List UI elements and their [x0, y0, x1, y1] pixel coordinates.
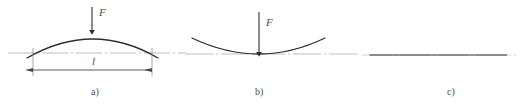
- force-label-a: F: [99, 7, 106, 18]
- span-label-a: l: [92, 56, 95, 67]
- force-label-b: F: [266, 17, 273, 28]
- caption-a: a): [91, 87, 99, 97]
- caption-b: b): [255, 87, 263, 97]
- caption-c: c): [447, 87, 455, 97]
- panel-a: [8, 7, 186, 76]
- beam-deflection-figure: F l a) F b) c): [0, 0, 530, 112]
